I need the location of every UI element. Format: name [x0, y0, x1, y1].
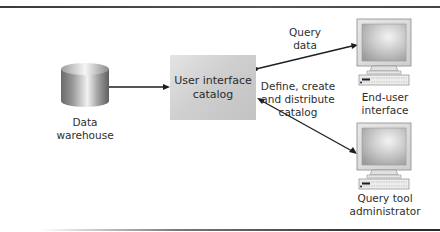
data-warehouse-label: Data warehouse	[50, 116, 120, 142]
catalog-label-line2: catalog	[193, 88, 234, 102]
query-tool-admin-label: Query tool administrator	[344, 192, 426, 218]
query-data-line1: Query	[280, 26, 330, 39]
warehouse-label-line2: warehouse	[50, 129, 120, 142]
define-line1: Define, create	[258, 80, 338, 93]
user-interface-catalog-node: User interface catalog	[170, 55, 256, 120]
query-data-line2: data	[280, 39, 330, 52]
define-line3: catalog	[258, 106, 338, 119]
arrow-warehouse-to-catalog	[109, 84, 170, 90]
end-user-line1: End-user	[350, 91, 420, 104]
query-data-label: Query data	[280, 26, 330, 52]
end-user-line2: interface	[350, 104, 420, 117]
catalog-label-line1: User interface	[174, 74, 252, 88]
computer-monitor-icon	[357, 123, 411, 189]
define-catalog-label: Define, create and distribute catalog	[258, 80, 338, 119]
database-cylinder-icon	[61, 63, 109, 107]
warehouse-label-line1: Data	[50, 116, 120, 129]
computer-monitor-icon	[357, 19, 411, 85]
admin-line1: Query tool	[344, 192, 426, 205]
define-line2: and distribute	[258, 93, 338, 106]
admin-line2: administrator	[344, 205, 426, 218]
end-user-label: End-user interface	[350, 91, 420, 117]
